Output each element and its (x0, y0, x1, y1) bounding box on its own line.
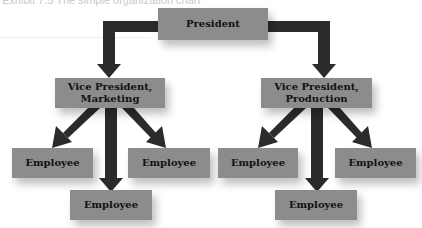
president-box: President (158, 8, 268, 40)
marketing-employee-box: Employee (128, 148, 210, 178)
vp-marketing-title: Vice President, (68, 81, 153, 93)
arrow-down-icon (97, 64, 121, 78)
president-label: President (186, 18, 240, 30)
vp-production-dept: Production (274, 93, 359, 105)
employee-label: Employee (348, 157, 402, 169)
arrow-diag-right-shaft (122, 108, 156, 138)
marketing-employee-box: Employee (70, 190, 152, 220)
marketing-employee-box: Employee (12, 148, 93, 178)
arrow-diag-left-shaft (63, 108, 100, 138)
left-drop-bar (103, 21, 115, 66)
production-employee-box: Employee (218, 148, 298, 178)
employee-label: Employee (231, 157, 285, 169)
employee-label: Employee (25, 157, 79, 169)
employee-label: Employee (142, 157, 196, 169)
vp-marketing-box: Vice President, Marketing (55, 78, 165, 108)
production-employee-box: Employee (275, 190, 357, 220)
vp-production-title: Vice President, (274, 81, 359, 93)
right-drop-bar (318, 21, 330, 66)
arrow-down-icon (312, 64, 336, 78)
employee-label: Employee (289, 199, 343, 211)
vp-production-box: Vice President, Production (261, 78, 372, 108)
vp-marketing-dept: Marketing (68, 93, 153, 105)
employee-label: Employee (84, 199, 138, 211)
production-employee-box: Employee (335, 148, 416, 178)
